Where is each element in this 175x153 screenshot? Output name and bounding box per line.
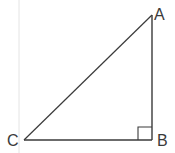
vertex-label-a: A	[154, 6, 165, 23]
hypotenuse-ca	[24, 15, 152, 140]
vertex-label-b: B	[157, 132, 168, 149]
vertex-label-c: C	[7, 132, 19, 149]
triangle-diagram: A B C	[0, 0, 175, 153]
right-angle-marker	[138, 127, 152, 140]
